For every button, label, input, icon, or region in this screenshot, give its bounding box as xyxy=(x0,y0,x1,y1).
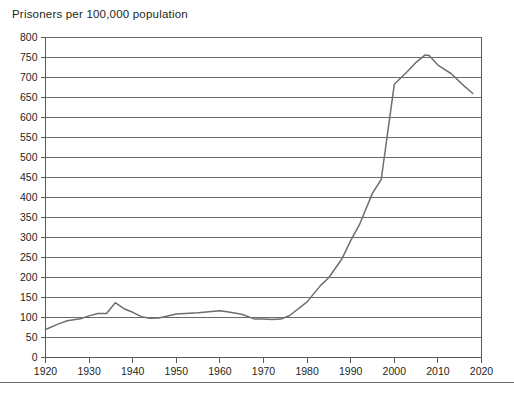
data-series-group xyxy=(46,55,473,329)
y-tick-label-650: 650 xyxy=(20,91,38,103)
y-tick-marks-group xyxy=(41,38,46,358)
x-tick-label-2020: 2020 xyxy=(470,365,494,377)
chart-figure: Prisoners per 100,000 population 0501001… xyxy=(0,0,514,397)
y-tick-label-600: 600 xyxy=(20,111,38,123)
data-line-series-0 xyxy=(46,55,473,329)
plot-area: 0501001502002503003504004505005506006507… xyxy=(0,0,514,397)
x-tick-marks-group xyxy=(46,358,482,363)
y-tick-labels-group: 0501001502002503003504004505005506006507… xyxy=(20,31,38,363)
gridlines-group xyxy=(46,38,482,358)
y-tick-label-550: 550 xyxy=(20,131,38,143)
y-tick-label-450: 450 xyxy=(20,171,38,183)
x-tick-label-1980: 1980 xyxy=(295,365,319,377)
y-tick-label-800: 800 xyxy=(20,31,38,43)
x-tick-labels-group: 1920193019401950196019701980199020002010… xyxy=(34,365,494,377)
x-tick-label-1990: 1990 xyxy=(339,365,363,377)
x-tick-label-1960: 1960 xyxy=(208,365,232,377)
y-tick-label-50: 50 xyxy=(26,331,38,343)
x-tick-label-1920: 1920 xyxy=(34,365,58,377)
y-tick-label-500: 500 xyxy=(20,151,38,163)
x-tick-label-1970: 1970 xyxy=(252,365,276,377)
y-tick-label-350: 350 xyxy=(20,211,38,223)
y-tick-label-200: 200 xyxy=(20,271,38,283)
y-tick-label-400: 400 xyxy=(20,191,38,203)
y-tick-label-750: 750 xyxy=(20,51,38,63)
x-tick-label-2010: 2010 xyxy=(426,365,450,377)
x-tick-label-1930: 1930 xyxy=(77,365,101,377)
y-tick-label-300: 300 xyxy=(20,231,38,243)
y-tick-label-0: 0 xyxy=(32,351,38,363)
y-tick-label-700: 700 xyxy=(20,71,38,83)
y-tick-label-100: 100 xyxy=(20,311,38,323)
line-chart-svg: 0501001502002503003504004505005506006507… xyxy=(0,0,514,397)
x-tick-label-1940: 1940 xyxy=(121,365,145,377)
x-tick-label-2000: 2000 xyxy=(383,365,407,377)
y-tick-label-150: 150 xyxy=(20,291,38,303)
x-tick-label-1950: 1950 xyxy=(165,365,189,377)
y-tick-label-250: 250 xyxy=(20,251,38,263)
footer-divider xyxy=(0,382,514,383)
